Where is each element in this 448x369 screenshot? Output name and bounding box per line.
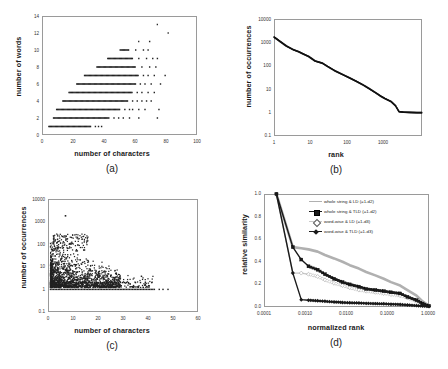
legend-marker-line-2	[309, 221, 322, 222]
panel-d-xlabel: normalized rank	[224, 323, 448, 332]
panel-c-xlabel: number of characters	[0, 326, 224, 335]
legend-square-icon	[314, 210, 320, 216]
legend-label-0: whole string & LD (=1-d2)	[324, 199, 374, 204]
legend-marker-line-3	[309, 231, 322, 232]
panel-d-legend: whole string & LD (=1-d2) whole string &…	[309, 196, 427, 236]
four-panel-figure: number of words 0 2 4 6 8 10 12 14 0 20 …	[0, 0, 448, 369]
panel-d-caption: (d)	[224, 337, 448, 348]
panel-a-canvas	[42, 16, 197, 135]
panel-a-caption: (a)	[0, 163, 224, 174]
panel-c: number of occurrences 0.1 1 10 100 1000 …	[0, 185, 224, 369]
panel-c-caption: (c)	[0, 340, 224, 351]
panel-b: number of occurrences 0.1 1 10 100 1000 …	[224, 0, 448, 185]
panel-c-canvas	[48, 199, 198, 312]
panel-b-caption: (b)	[224, 164, 448, 175]
legend-diamond-icon	[313, 229, 319, 235]
legend-item-1: whole string & TLD (=1-d2)	[309, 206, 427, 216]
legend-item-3: word-wise & TLD (=1-d3)	[309, 226, 427, 236]
panel-d: relative similarity whole string & LD (=…	[224, 185, 448, 369]
legend-marker-line-1	[309, 211, 322, 212]
panel-a: number of words 0 2 4 6 8 10 12 14 0 20 …	[0, 0, 224, 185]
legend-marker-line-0	[309, 201, 322, 202]
legend-item-2: word-wise & LD (=1-d3)	[309, 216, 427, 226]
legend-label-3: word-wise & TLD (=1-d3)	[324, 229, 373, 234]
legend-item-0: whole string & LD (=1-d2)	[309, 196, 427, 206]
legend-label-2: word-wise & LD (=1-d3)	[324, 219, 370, 224]
panel-c-ylabel: number of occurrences	[19, 200, 28, 296]
panel-b-xlabel: rank	[224, 150, 448, 159]
panel-a-xlabel: number of characters	[0, 149, 224, 158]
panel-b-canvas	[274, 19, 422, 136]
legend-label-1: whole string & TLD (=1-d2)	[324, 209, 377, 214]
